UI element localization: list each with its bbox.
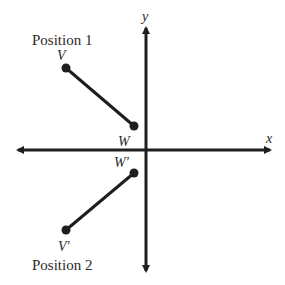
point-w-prime-label: W': [114, 155, 130, 170]
point-w-label: W: [118, 134, 131, 149]
point-w: [130, 122, 139, 131]
point-v-prime: [62, 226, 71, 235]
position-2-title: Position 2: [32, 257, 92, 273]
segment-position-1: [62, 64, 139, 131]
y-axis-label: y: [140, 9, 149, 24]
point-v-label: V: [57, 48, 67, 63]
segment-position-2: [62, 169, 139, 235]
position-1-title: Position 1: [32, 32, 92, 48]
point-v: [62, 64, 71, 73]
point-w-prime: [130, 169, 139, 178]
coordinate-diagram: x y Position 1 V W W' V' Position 2: [0, 0, 285, 285]
point-v-prime-label: V': [58, 239, 71, 254]
x-axis-label: x: [265, 131, 273, 146]
